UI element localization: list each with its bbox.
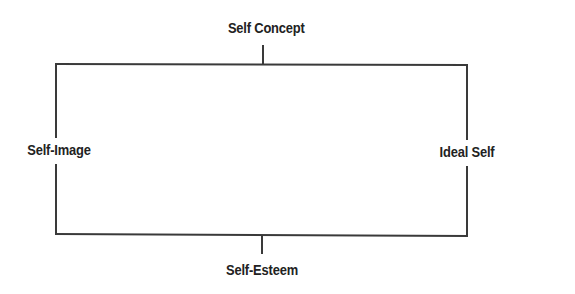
node-self-esteem: Self-Esteem — [225, 261, 299, 278]
node-self-image: Self-Image — [25, 141, 92, 158]
bottom-connector — [261, 235, 263, 254]
frame-left-edge-upper — [55, 63, 57, 138]
frame-left-edge-lower — [55, 164, 57, 234]
frame-right-edge-upper — [466, 64, 468, 140]
node-ideal-self: Ideal Self — [437, 143, 497, 160]
node-self-concept: Self Concept — [228, 19, 300, 36]
frame-right-edge-lower — [466, 166, 468, 236]
frame-top-edge — [55, 63, 468, 66]
top-connector — [262, 45, 264, 64]
